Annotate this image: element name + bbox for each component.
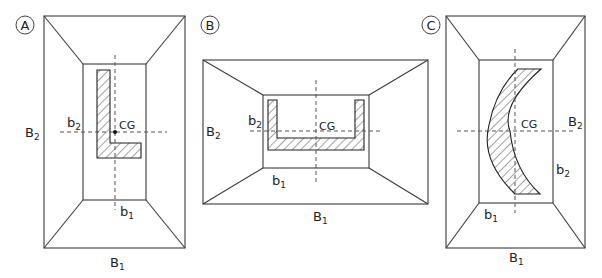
panel-a: A CG b2 b1 B2 B1 <box>16 16 185 272</box>
b1-label: b1 <box>120 204 134 221</box>
cg-label: CG <box>319 120 335 133</box>
cg-point <box>113 130 117 134</box>
badge-label: C <box>426 18 435 33</box>
diagram-canvas: A CG b2 b1 B2 B1 B CG b2 b1 B2 <box>0 0 602 278</box>
panel-c-badge: C <box>422 16 440 34</box>
panel-c: C CG b2 b1 B2 B1 <box>422 16 585 267</box>
panel-b-badge: B <box>201 16 219 34</box>
b1-label: b1 <box>272 173 286 190</box>
B1-label: B1 <box>313 209 328 226</box>
cg-label: CG <box>521 118 537 131</box>
B1-label: B1 <box>509 250 524 267</box>
b2-label: b2 <box>556 162 570 179</box>
badge-label: A <box>21 18 30 33</box>
B1-label: B1 <box>110 255 125 272</box>
panel-a-badge: A <box>16 16 34 34</box>
l-section <box>97 70 141 158</box>
B2-label: B2 <box>25 125 40 142</box>
badge-label: B <box>206 18 215 33</box>
b1-label: b1 <box>484 207 498 224</box>
B2-label: B2 <box>206 124 221 141</box>
B2-label: B2 <box>568 114 583 131</box>
b2-label: b2 <box>67 115 81 132</box>
b2-label: b2 <box>248 113 262 130</box>
cg-label: CG <box>119 119 135 132</box>
panel-b: B CG b2 b1 B2 B1 <box>201 16 428 226</box>
